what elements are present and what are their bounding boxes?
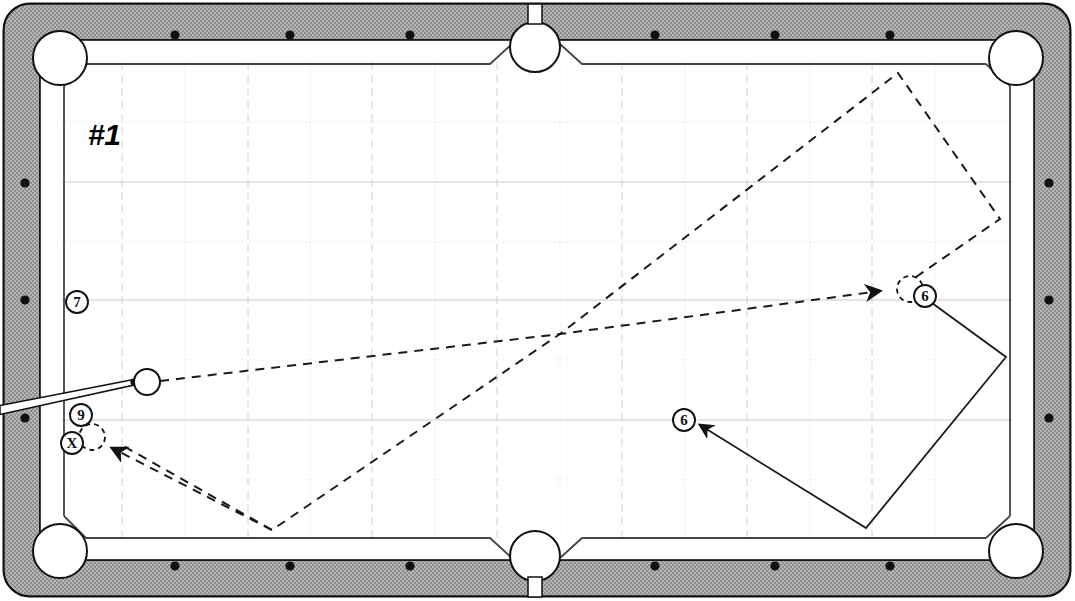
cue-ball — [134, 369, 160, 395]
rail-diamond-left-1 — [20, 295, 29, 304]
pocket-bottom-side — [510, 531, 560, 581]
rail-diamond-top-1 — [285, 30, 294, 39]
rail-diamond-bottom-5 — [885, 561, 894, 570]
marker-6-aim-label: 6 — [680, 412, 688, 428]
rail-diamond-bottom-3 — [650, 561, 659, 570]
rail-diamond-right-2 — [1044, 413, 1053, 422]
rail-diamond-left-0 — [20, 178, 29, 187]
pool-table-diagram: 79X66 #1 — [0, 0, 1075, 601]
rail-diamond-bottom-2 — [405, 561, 414, 570]
rail-diamond-top-4 — [770, 30, 779, 39]
rail-diamond-top-2 — [405, 30, 414, 39]
marker-x: X — [61, 432, 83, 454]
rail-diamond-left-2 — [20, 413, 29, 422]
marker-7: 7 — [66, 291, 88, 313]
pocket-bottom-right-corner — [989, 524, 1043, 578]
rail-diamond-bottom-1 — [285, 561, 294, 570]
marker-6-aim: 6 — [673, 409, 695, 431]
pocket-top-side — [510, 22, 560, 72]
marker-9-label: 9 — [77, 407, 85, 423]
bottom-side-pocket-tab — [528, 577, 542, 597]
rail-diamond-top-0 — [170, 30, 179, 39]
top-side-pocket-tab — [528, 4, 542, 24]
marker-7-label: 7 — [73, 294, 81, 310]
pocket-top-right-corner — [989, 31, 1043, 85]
pocket-top-left-corner — [33, 31, 87, 85]
rail-diamond-bottom-0 — [170, 561, 179, 570]
marker-6-target-label: 6 — [921, 288, 929, 304]
playing-surface — [62, 62, 1012, 540]
marker-6-target: 6 — [914, 285, 936, 307]
rail-diamond-top-3 — [650, 30, 659, 39]
marker-9: 9 — [70, 404, 92, 426]
pocket-bottom-left-corner — [33, 524, 87, 578]
table-svg: 79X66 — [0, 0, 1075, 601]
rail-diamond-right-0 — [1044, 178, 1053, 187]
rail-diamond-top-5 — [885, 30, 894, 39]
rail-diamond-right-1 — [1044, 295, 1053, 304]
marker-x-label: X — [67, 435, 78, 451]
rail-diamond-bottom-4 — [770, 561, 779, 570]
